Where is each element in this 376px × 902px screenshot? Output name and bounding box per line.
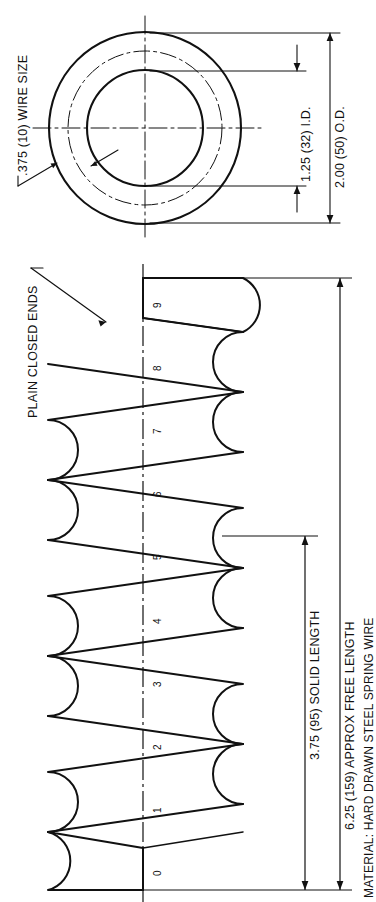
outer-diameter-label: 2.00 (50) O.D. bbox=[333, 106, 347, 188]
solid-length-arrow-bottom bbox=[302, 881, 309, 890]
plain-closed-ends-label: PLAIN CLOSED ENDS bbox=[26, 285, 40, 418]
coil-number-4: 4 bbox=[152, 618, 163, 624]
coil-number-2: 2 bbox=[152, 744, 163, 750]
top-end-seat bbox=[143, 318, 243, 332]
side-view-graphics bbox=[0, 250, 364, 902]
coil-number-3: 3 bbox=[152, 681, 163, 687]
coil-back-turn-3 bbox=[213, 392, 243, 452]
od-arrow-bottom bbox=[327, 215, 334, 223]
solid-length-arrow-top bbox=[302, 536, 309, 545]
coil-back-turn-5 bbox=[48, 480, 78, 540]
free-length-label: 6.25 (159) APPROX FREE LENGTH bbox=[343, 621, 357, 830]
inner-diameter-label: 1.25 (32) I.D. bbox=[299, 106, 313, 182]
od-arrow-top bbox=[327, 33, 334, 41]
coil-back-turn-1 bbox=[213, 744, 243, 804]
coil-back-turn-2 bbox=[213, 568, 243, 628]
bottom-end-seat bbox=[143, 832, 243, 848]
coil-number-6: 6 bbox=[152, 492, 163, 498]
coil-number-9: 9 bbox=[152, 302, 163, 308]
free-length-arrow-top bbox=[337, 278, 344, 287]
wire-size-label: .375 (10) WIRE SIZE bbox=[16, 55, 30, 176]
coil-number-0: 0 bbox=[152, 870, 163, 876]
coil-number-8: 8 bbox=[152, 366, 163, 372]
coil-back-turn-4 bbox=[48, 656, 78, 716]
free-length-arrow-bottom bbox=[337, 881, 344, 890]
id-arrow-bottom bbox=[294, 186, 301, 194]
solid-length-label: 3.75 (95) SOLID LENGTH bbox=[308, 610, 322, 760]
coil-number-1: 1 bbox=[152, 807, 163, 813]
material-note: MATERIAL: HARD DRAWN STEEL SPRING WIRE bbox=[362, 617, 376, 898]
plain-closed-ends-leader bbox=[31, 268, 106, 322]
coil-number-7: 7 bbox=[152, 429, 163, 435]
id-arrow-top bbox=[294, 63, 301, 71]
coil-number-5: 5 bbox=[152, 555, 163, 561]
